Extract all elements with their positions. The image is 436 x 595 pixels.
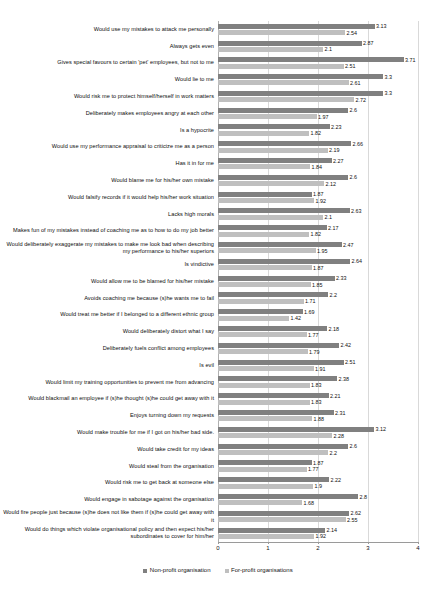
bar-np [218,393,329,398]
bar-track-np: 1.69 [218,309,436,314]
chart-row: Would blackmail an employee if (s)he tho… [0,391,436,408]
bar-track-fp: 1.42 [218,316,436,321]
legend-label: For-profit organisations [231,566,293,575]
bar-fp [218,97,354,102]
bar-fp [218,433,332,438]
category-label: Would make trouble for me if I got on hi… [0,424,218,441]
bar-pair: 3.32.61 [218,71,436,88]
bar-track-np: 3.13 [218,24,436,29]
bar-np [218,141,351,146]
bar-fp [218,198,314,203]
bar-pair: 2.381.83 [218,374,436,391]
bar-np [218,108,348,113]
bar-value-label: 1.83 [310,382,322,388]
bar-value-label: 1.95 [316,248,328,254]
legend-swatch-icon [225,569,229,573]
category-label: Would deliberately exaggerate my mistake… [0,239,218,256]
chart-row: Would allow me to be blamed for his/her … [0,273,436,290]
chart-row: Would take credit for my ideas2.62.2 [0,441,436,458]
chart-row: Deliberately makes employees angry at ea… [0,105,436,122]
bar-fp [218,248,316,253]
bar-np [218,460,312,465]
bar-fp [218,80,349,85]
legend-item-non-profit[interactable]: Non-profit organisation [143,566,210,575]
bar-track-fp: 1.88 [218,416,436,421]
category-label: Has it in for me [0,155,218,172]
bar-value-label: 1.82 [309,130,321,136]
bar-pair: 2.81.68 [218,491,436,508]
legend-label: Non-profit organisation [150,566,211,575]
bar-track-fp: 1.92 [218,198,436,203]
chart-row: Makes fun of my mistakes instead of coac… [0,223,436,240]
bar-fp [218,299,304,304]
bar-value-label: 2.8 [358,494,367,500]
bar-fp [218,400,310,405]
bar-fp [218,383,310,388]
bar-track-fp: 1.82 [218,131,436,136]
bar-chart: Would use my mistakes to attack me perso… [0,0,436,595]
category-label-text: Would blame me for his/her own mistake [111,177,214,184]
bar-track-np: 2.8 [218,494,436,499]
bar-np [218,427,374,432]
bar-value-label: 2.19 [328,147,340,153]
bar-fp [218,484,313,489]
chart-legend: Non-profit organisationFor-profit organi… [0,566,436,575]
bar-track-fp: 1.82 [218,232,436,237]
bar-fp [218,265,312,270]
bar-value-label: 2.2 [328,292,337,298]
bar-value-label: 3.12 [374,426,386,432]
bar-fp [218,164,310,169]
bar-pair: 2.21.71 [218,290,436,307]
category-label-text: Would limit my training opportunities to… [45,379,214,386]
category-label-text: Deliberately makes employees angry at ea… [86,110,214,117]
bar-fp [218,131,309,136]
bar-value-label: 2.42 [339,342,351,348]
category-label-text: Would steal from the organisation [129,463,214,470]
bar-np [218,192,312,197]
bar-np [218,24,375,29]
bar-pair: 2.231.82 [218,122,436,139]
bar-track-np: 2.27 [218,158,436,163]
bar-value-label: 2.22 [329,477,341,483]
bar-pair: 2.511.91 [218,357,436,374]
bar-value-label: 2.61 [349,80,361,86]
x-tick-label: 0 [216,544,219,553]
chart-row: Would risk me to protect himself/herself… [0,88,436,105]
bar-value-label: 2.66 [351,141,363,147]
bar-track-fp: 1.83 [218,400,436,405]
category-label: Avoids coaching me because (s)he wants m… [0,290,218,307]
chart-row: Would steal from the organisation1.871.7… [0,458,436,475]
chart-row: Would use my performance appraisal to cr… [0,139,436,156]
bar-fp [218,332,307,337]
category-label: Would engage in sabotage against the org… [0,491,218,508]
bar-np [218,494,358,499]
bar-fp [218,47,323,52]
bar-value-label: 2.23 [330,124,342,130]
bar-value-label: 1.77 [307,466,319,472]
bar-value-label: 1.91 [314,366,326,372]
category-label-text: Would use my performance appraisal to cr… [52,143,214,150]
chart-row: Would make trouble for me if I got on hi… [0,424,436,441]
bar-value-label: 2.31 [334,410,346,416]
bar-value-label: 2.27 [332,158,344,164]
category-label-text: Would treat me better if I belonged to a… [60,311,214,318]
bar-value-label: 2.6 [348,174,357,180]
category-label-text: Always gets even [170,43,214,50]
bar-fp [218,114,317,119]
legend-item-for-profit[interactable]: For-profit organisations [225,566,293,575]
bar-np [218,41,362,46]
chart-row: Would deliberately distort what I say2.1… [0,323,436,340]
bar-track-np: 2.23 [218,124,436,129]
chart-row: Is vindictive2.641.87 [0,256,436,273]
bar-np [218,57,404,62]
bar-track-fp: 2.12 [218,181,436,186]
bar-value-label: 1.79 [308,349,320,355]
bar-track-np: 2.38 [218,376,436,381]
category-label: Would falsify records if it would help h… [0,189,218,206]
bar-np [218,343,339,348]
bar-fp [218,500,302,505]
bar-track-np: 2.33 [218,276,436,281]
bar-track-fp: 1.77 [218,332,436,337]
bar-fp [218,416,312,421]
chart-row: Would risk me to get back at someone els… [0,475,436,492]
